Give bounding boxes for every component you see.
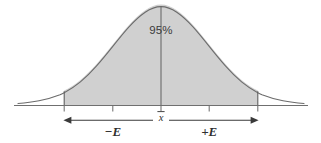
confidence-level-label: 95% [149,24,172,36]
axis-tick-group [64,105,258,111]
margin-of-error-left-label: −E [105,124,122,139]
mean-label: x [158,112,164,123]
figure-container: 95% x −E +E [0,0,321,143]
arrow-head-right-icon [251,117,259,124]
normal-distribution-chart: 95% x −E +E [0,0,321,143]
arrow-head-left-icon [63,117,71,124]
margin-of-error-right-label: +E [201,124,217,139]
